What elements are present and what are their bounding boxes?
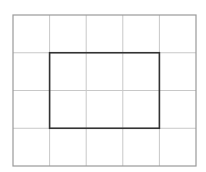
grid-diagram xyxy=(0,0,206,172)
grid-lines xyxy=(13,15,196,166)
